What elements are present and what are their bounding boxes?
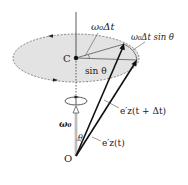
- label-vector-t: e′z(t): [102, 138, 125, 148]
- label-omega: ω₀: [59, 119, 72, 129]
- label-origin: O: [64, 153, 72, 164]
- label-radius: sin θ: [85, 66, 107, 76]
- leader-vec-t: [92, 137, 101, 141]
- rotation-arrow-icon: [75, 96, 80, 99]
- omega-arrowhead-icon: [73, 106, 79, 113]
- label-theta: θ: [78, 133, 83, 142]
- leader-arc: [133, 42, 145, 50]
- label-vector-t-dt: e′z(t + Δt): [120, 106, 166, 116]
- label-angle-increment: ω₀Δt: [91, 21, 115, 32]
- label-arc-length: ω₀Δt sin θ: [131, 32, 174, 42]
- center-point: [74, 56, 78, 60]
- label-center: C: [63, 53, 71, 64]
- precession-diagram: ω₀Δt ω₀Δt sin θ C sin θ ω₀ θ e′z(t + Δt)…: [0, 0, 188, 185]
